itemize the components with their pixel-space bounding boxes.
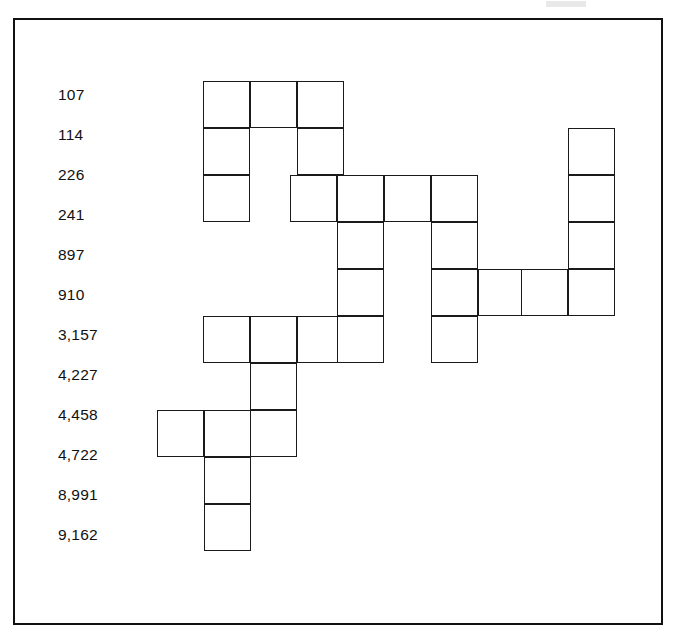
- page-root: 1071142262418979103,1574,2274,4584,7228,…: [0, 0, 680, 640]
- grid-cell[interactable]: [204, 410, 251, 457]
- grid-cell[interactable]: [290, 175, 337, 222]
- grid-cell[interactable]: [431, 316, 478, 363]
- grid-cell[interactable]: [568, 128, 615, 175]
- grid-cell[interactable]: [337, 269, 384, 316]
- grid-cell[interactable]: [521, 269, 568, 316]
- grid-cell[interactable]: [157, 410, 204, 457]
- grid-cell[interactable]: [203, 81, 250, 128]
- grid-cell[interactable]: [568, 175, 615, 222]
- grid-cell[interactable]: [204, 504, 251, 551]
- grid-cell[interactable]: [297, 128, 344, 175]
- grid-cell[interactable]: [431, 222, 478, 269]
- grid-cell[interactable]: [250, 81, 297, 128]
- grid-cell[interactable]: [250, 316, 297, 363]
- grid-cell[interactable]: [250, 410, 297, 457]
- grid-cell[interactable]: [203, 128, 250, 175]
- grid-cell[interactable]: [337, 222, 384, 269]
- grid-cell[interactable]: [478, 269, 525, 316]
- crossword-grid: [0, 0, 680, 640]
- grid-cell[interactable]: [250, 363, 297, 410]
- grid-cell[interactable]: [431, 269, 478, 316]
- grid-cell[interactable]: [431, 175, 478, 222]
- grid-cell[interactable]: [203, 175, 250, 222]
- grid-cell[interactable]: [337, 316, 384, 363]
- grid-cell[interactable]: [203, 316, 250, 363]
- grid-cell[interactable]: [337, 175, 384, 222]
- grid-cell[interactable]: [568, 269, 615, 316]
- grid-cell[interactable]: [297, 81, 344, 128]
- grid-cell[interactable]: [384, 175, 431, 222]
- grid-cell[interactable]: [204, 457, 251, 504]
- grid-cell[interactable]: [568, 222, 615, 269]
